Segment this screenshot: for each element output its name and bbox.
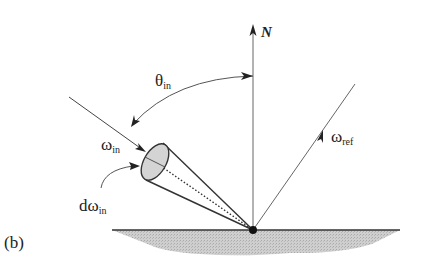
normal-vector: N <box>250 24 274 230</box>
normal-label: N <box>260 24 273 40</box>
theta-arc: θin <box>131 71 253 127</box>
incoming-arrowhead-icon <box>135 143 146 152</box>
panel-label: (b) <box>4 233 24 252</box>
d-omega-in-label: dωin <box>79 196 106 216</box>
omega-ref-label: ωref <box>331 127 354 147</box>
reflected-ray: ωref <box>253 84 355 230</box>
brdf-geometry-diagram: N θin ωin dωin ωref <box>0 0 424 261</box>
theta-arrowhead-left-icon <box>131 115 140 127</box>
theta-in-label: θin <box>155 71 171 91</box>
d-omega-in-annotation: dωin <box>79 162 140 216</box>
cone-axis-dotted <box>155 162 253 230</box>
surface <box>112 230 400 255</box>
omega-in-label: ωin <box>101 135 120 155</box>
incidence-point <box>249 226 257 234</box>
solid-angle-cone <box>135 139 253 230</box>
surface-shading <box>112 230 400 255</box>
